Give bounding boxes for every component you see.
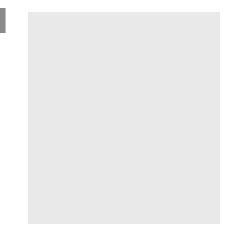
go-diagram-root (0, 0, 235, 245)
go-board[interactable] (28, 12, 220, 224)
left-edge-marker (0, 8, 6, 33)
board-grid (28, 12, 220, 224)
